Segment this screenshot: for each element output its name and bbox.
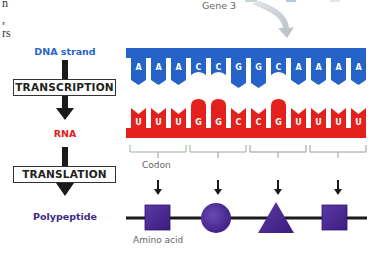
rna-base-U: U: [151, 108, 166, 128]
svg-text:C: C: [276, 63, 282, 72]
svg-text:C: C: [216, 63, 222, 72]
svg-text:A: A: [315, 63, 322, 72]
rna-base-U: U: [171, 108, 186, 128]
rna-base-U: U: [291, 108, 306, 128]
codon-brackets: [130, 145, 366, 158]
svg-text:C: C: [196, 63, 202, 72]
svg-text:G: G: [255, 63, 262, 72]
amino-acid-4-square: [322, 205, 347, 230]
dna-base-G: G: [231, 58, 246, 88]
svg-text:A: A: [155, 63, 162, 72]
rna-base-G: G: [191, 99, 206, 128]
rna-base-U: U: [311, 108, 326, 128]
rna-base-U: U: [331, 108, 346, 128]
svg-text:G: G: [215, 118, 222, 127]
rna-base-G: G: [271, 99, 286, 128]
svg-text:G: G: [195, 118, 202, 127]
svg-text:A: A: [175, 63, 182, 72]
svg-text:C: C: [256, 118, 262, 127]
svg-text:U: U: [355, 118, 362, 127]
svg-text:U: U: [135, 118, 142, 127]
dna-base-C: C: [211, 58, 226, 75]
amino-acid-label: Amino acid: [133, 235, 183, 245]
svg-text:U: U: [295, 118, 302, 127]
svg-text:G: G: [275, 118, 282, 127]
rna-base-C: C: [231, 108, 246, 128]
rna-base-U: U: [351, 108, 366, 128]
svg-text:C: C: [236, 118, 242, 127]
dna-base-G: G: [251, 58, 266, 88]
rna-base-G: G: [211, 99, 226, 128]
svg-text:A: A: [335, 63, 342, 72]
svg-text:G: G: [235, 63, 242, 72]
codon-to-amino-arrows: [154, 180, 342, 195]
dna-strand-label: DNA strand: [5, 46, 125, 57]
svg-text:U: U: [335, 118, 342, 127]
codon-label: Codon: [142, 160, 171, 170]
dna-base-A: A: [291, 58, 306, 85]
rna-base-U: U: [131, 108, 146, 128]
rna-label: RNA: [5, 128, 125, 139]
polypeptide-label: Polypeptide: [5, 211, 125, 222]
dna-strand: AAACCGGCAAAA: [126, 48, 366, 88]
rna-base-C: C: [251, 108, 266, 128]
dna-base-C: C: [271, 58, 286, 75]
dna-base-A: A: [151, 58, 166, 85]
rna-strand: UUUGGCCGUUUU: [126, 99, 366, 138]
transcription-box: TRANSCRIPTION: [13, 79, 116, 96]
dna-base-A: A: [311, 58, 326, 85]
dna-base-A: A: [351, 58, 366, 85]
svg-text:U: U: [175, 118, 182, 127]
amino-acid-2-circle: [201, 203, 231, 233]
translation-box: TRANSLATION: [13, 166, 116, 183]
svg-text:A: A: [355, 63, 362, 72]
gene-pointer-arrow: [252, 1, 294, 38]
dna-base-C: C: [191, 58, 206, 75]
svg-text:A: A: [295, 63, 302, 72]
svg-text:A: A: [135, 63, 142, 72]
svg-text:U: U: [315, 118, 322, 127]
svg-text:U: U: [155, 118, 162, 127]
amino-acid-1-square: [145, 205, 170, 230]
dna-base-A: A: [331, 58, 346, 85]
dna-base-A: A: [131, 58, 146, 85]
dna-base-A: A: [171, 58, 186, 85]
